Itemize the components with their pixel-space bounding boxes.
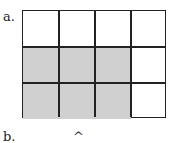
grid-cell: [95, 47, 131, 83]
grid-cell: [59, 47, 95, 83]
grid-cell: [23, 47, 59, 83]
grid-line: [130, 11, 132, 117]
grid-cell: [59, 83, 95, 119]
grid-line: [58, 11, 60, 117]
grid-line: [94, 11, 96, 117]
label-b: b.: [3, 130, 15, 143]
caret-mark: ^: [73, 130, 84, 143]
label-a: a.: [3, 10, 15, 23]
grid-line: [23, 46, 165, 48]
grid-line: [23, 82, 165, 84]
grid-cell: [23, 83, 59, 119]
grid-cell: [95, 83, 131, 119]
fraction-grid: [22, 10, 166, 118]
